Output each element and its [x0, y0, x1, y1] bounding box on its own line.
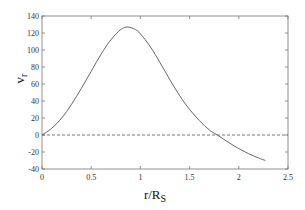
y-tick-label: 100: [27, 46, 39, 55]
chart: 00.511.522.5-40-20020406080100120140 r/R…: [0, 0, 305, 210]
x-tick-label: 1: [138, 173, 142, 182]
y-tick-label: 60: [31, 80, 39, 89]
x-tick-label: 2: [237, 173, 241, 182]
y-axis-label-sub: r: [18, 73, 29, 77]
y-tick-label: -40: [28, 165, 39, 174]
y-axis-label: vr: [12, 73, 29, 84]
data-line-vr: [42, 27, 265, 161]
plot-series: [42, 27, 288, 161]
plot-axes: 00.511.522.5-40-20020406080100120140: [27, 12, 293, 182]
y-tick-label: 40: [31, 97, 39, 106]
x-tick-label: 0: [40, 173, 44, 182]
x-axis-label: r/RS: [144, 187, 166, 204]
y-tick-label: 120: [27, 29, 39, 38]
y-tick-label: -20: [28, 148, 39, 157]
x-tick-label: 0.5: [86, 173, 96, 182]
y-tick-label: 80: [31, 63, 39, 72]
y-tick-label: 20: [31, 114, 39, 123]
x-axis-label-sub: S: [161, 193, 167, 204]
y-tick-label: 140: [27, 12, 39, 21]
x-tick-label: 1.5: [185, 173, 195, 182]
x-tick-label: 2.5: [283, 173, 293, 182]
y-tick-label: 0: [35, 131, 39, 140]
